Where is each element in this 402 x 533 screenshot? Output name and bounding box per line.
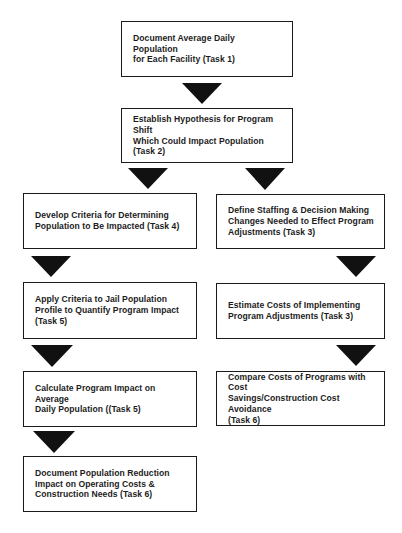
box-label: Calculate Program Impact on Average Dail…: [35, 383, 186, 415]
box-task6-document-reduction: Document Population Reduction Impact on …: [23, 456, 197, 512]
box-label: Define Staffing & Decision Making Change…: [228, 205, 374, 237]
box-task3-estimate-costs: Estimate Costs of Implementing Program A…: [216, 283, 385, 339]
box-task6-compare-costs: Compare Costs of Programs with Cost Savi…: [216, 371, 385, 426]
box-task5-calculate-impact: Calculate Program Impact on Average Dail…: [23, 371, 197, 427]
arrow-down-icon: [128, 168, 168, 189]
box-label: Estimate Costs of Implementing Program A…: [228, 300, 360, 322]
box-label: Apply Criteria to Jail Population Profil…: [35, 294, 179, 326]
box-task2-hypothesis: Establish Hypothesis for Program Shift W…: [121, 108, 293, 163]
box-label: Establish Hypothesis for Program Shift W…: [133, 114, 282, 157]
box-label: Document Average Daily Population for Ea…: [133, 33, 282, 65]
box-label: Compare Costs of Programs with Cost Savi…: [228, 372, 374, 426]
box-task3-define-staffing: Define Staffing & Decision Making Change…: [216, 194, 385, 249]
box-task1-document-adp: Document Average Daily Population for Ea…: [121, 21, 293, 77]
arrow-down-icon: [31, 345, 73, 367]
box-task4-develop-criteria: Develop Criteria for Determining Populat…: [23, 193, 197, 249]
arrow-down-icon: [31, 256, 71, 277]
arrow-down-icon: [336, 345, 376, 366]
arrow-down-icon: [182, 83, 222, 104]
box-label: Develop Criteria for Determining Populat…: [35, 210, 179, 232]
box-label: Document Population Reduction Impact on …: [35, 468, 170, 500]
arrow-down-icon: [33, 431, 75, 453]
arrow-down-icon: [336, 256, 376, 277]
arrow-down-icon: [245, 168, 285, 190]
box-task5-apply-criteria: Apply Criteria to Jail Population Profil…: [23, 282, 197, 339]
